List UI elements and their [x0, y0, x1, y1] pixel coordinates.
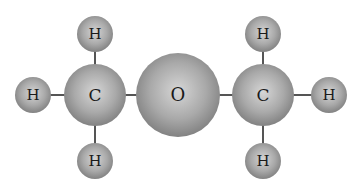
- hydrogen-atom-left-top: H: [77, 16, 113, 52]
- atom-label: H: [88, 154, 101, 169]
- atom-label: H: [26, 88, 39, 103]
- atom-label: H: [256, 27, 269, 42]
- carbon-atom-right: C: [232, 64, 294, 126]
- hydrogen-atom-right: H: [311, 77, 347, 113]
- atom-label: H: [256, 154, 269, 169]
- hydrogen-atom-left-bottom: H: [77, 143, 113, 179]
- bond-c1-h3: [94, 125, 96, 144]
- bond-c1-h2: [94, 51, 96, 65]
- oxygen-atom: O: [136, 53, 220, 137]
- atom-label: C: [88, 87, 101, 104]
- atom-label: O: [171, 86, 186, 104]
- bond-c2-h4: [262, 51, 264, 65]
- carbon-atom-left: C: [64, 64, 126, 126]
- dimethyl-ether-diagram: H C H H O C H H H: [0, 0, 355, 195]
- hydrogen-atom-right-bottom: H: [245, 143, 281, 179]
- bond-c2-h6: [292, 94, 312, 96]
- hydrogen-atom-right-top: H: [245, 16, 281, 52]
- atom-label: H: [322, 88, 335, 103]
- atom-label: H: [88, 27, 101, 42]
- bond-c2-h5: [262, 125, 264, 144]
- atom-label: C: [256, 87, 269, 104]
- hydrogen-atom-left: H: [15, 77, 51, 113]
